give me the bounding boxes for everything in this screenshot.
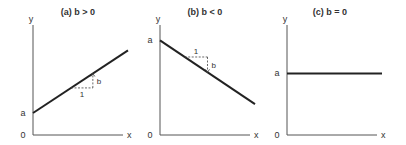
y-axis-label: y <box>29 14 34 24</box>
panel-title: (a) b > 0 <box>61 7 95 17</box>
origin-label: 0 <box>147 130 152 140</box>
x-axis-label: x <box>127 130 132 140</box>
run-label: 1 <box>194 47 199 56</box>
origin-label: 0 <box>274 130 279 140</box>
linear-function-diagram: (a) b > 0yx0a1b(b) b < 0yx0a1b(c) b = 0y… <box>0 0 406 145</box>
regression-line <box>33 50 128 113</box>
panel-title: (c) b = 0 <box>313 7 347 17</box>
panel-b: (b) b < 0yx0a1b <box>147 7 259 140</box>
intercept-label: a <box>274 68 279 78</box>
intercept-label: a <box>147 35 152 45</box>
run-label: 1 <box>80 90 85 99</box>
y-axis-label: y <box>156 14 161 24</box>
panel-a: (a) b > 0yx0a1b <box>20 7 132 140</box>
x-axis-label: x <box>254 130 259 140</box>
panel-c: (c) b = 0yx0a <box>274 7 386 140</box>
rise-label: b <box>97 77 102 86</box>
rise-label: b <box>212 61 217 70</box>
y-axis-label: y <box>283 14 288 24</box>
x-axis-label: x <box>381 130 386 140</box>
origin-label: 0 <box>20 130 25 140</box>
intercept-label: a <box>20 108 25 118</box>
panel-title: (b) b < 0 <box>188 7 223 17</box>
